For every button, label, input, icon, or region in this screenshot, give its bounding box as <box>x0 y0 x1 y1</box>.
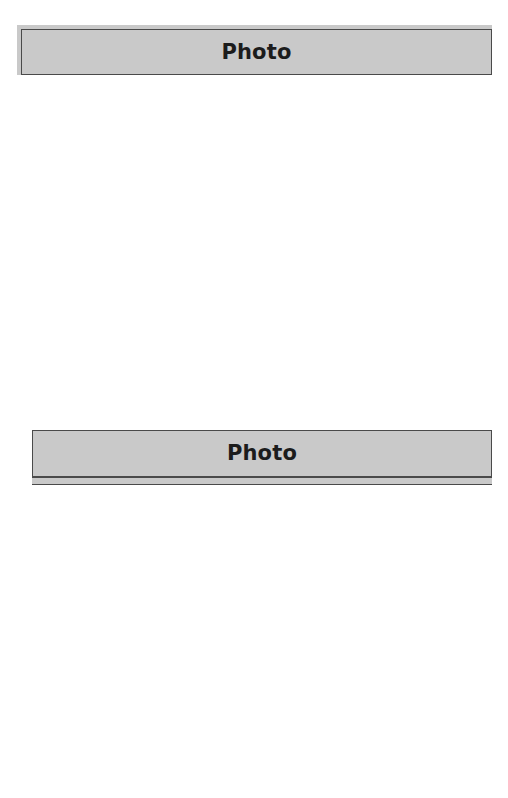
photo-panel-two-header-rule <box>32 477 492 485</box>
photo-panel-two: Photo <box>32 430 492 798</box>
photo-panel-one-title: Photo <box>221 42 291 63</box>
photo-panel-two-body <box>32 485 492 798</box>
photo-panel-one-header: Photo <box>21 29 492 75</box>
photo-panel-two-title: Photo <box>227 443 297 464</box>
photo-panel-two-header: Photo <box>32 430 492 477</box>
photo-panel-one: Photo <box>17 25 492 405</box>
photo-panel-one-body <box>17 75 492 405</box>
document-page: Photo Photo <box>0 0 508 798</box>
